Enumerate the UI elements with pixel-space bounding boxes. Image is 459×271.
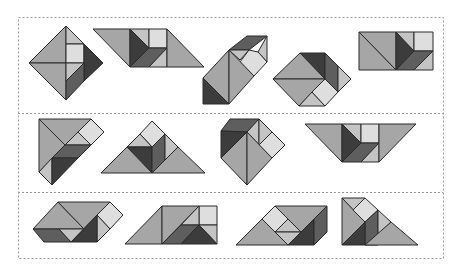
- tangram-piece-dark: [84, 44, 103, 81]
- tangram-piece-mid: [29, 26, 66, 63]
- tangram-piece-light: [338, 66, 351, 92]
- figure-trapezoid-inverted: [305, 124, 416, 162]
- tangram-piece-dark: [52, 158, 78, 185]
- tangram-piece-mid: [125, 206, 162, 244]
- figure-pentagon-gem: [221, 119, 285, 185]
- figure-trapezoid-right: [125, 206, 217, 244]
- tangram-piece-pale: [66, 44, 84, 63]
- tangram-piece-mid: [305, 124, 342, 162]
- row-2: [39, 119, 416, 185]
- figure-triangle-house: [101, 121, 205, 173]
- figure-square-diamond: [29, 26, 103, 100]
- row-3: [33, 198, 418, 245]
- figure-kite-left: [39, 119, 104, 185]
- figure-boat-hexagon: [33, 202, 123, 242]
- tangram-canvas: [0, 0, 459, 271]
- tangram-piece-pale: [414, 32, 433, 51]
- tangram-worksheet: [0, 0, 459, 271]
- figure-rectangle: [359, 32, 433, 70]
- row-1: [29, 26, 433, 106]
- figure-wedge-box: [236, 206, 327, 245]
- tangram-piece-pale: [149, 29, 167, 48]
- figure-parallelogram-wide: [93, 29, 204, 67]
- tangram-piece-mid: [167, 29, 204, 67]
- tangram-piece-light: [66, 26, 84, 44]
- tangram-piece-pale: [361, 124, 379, 143]
- tangram-piece-mid: [29, 63, 66, 100]
- figure-staircase-triangle: [342, 198, 418, 245]
- tangram-piece-mid: [379, 124, 416, 162]
- figure-hexagon-tilted: [203, 36, 267, 104]
- tangram-piece-pale: [199, 206, 217, 225]
- tangram-figures: [29, 26, 433, 245]
- figure-hexagon-flat: [273, 53, 351, 106]
